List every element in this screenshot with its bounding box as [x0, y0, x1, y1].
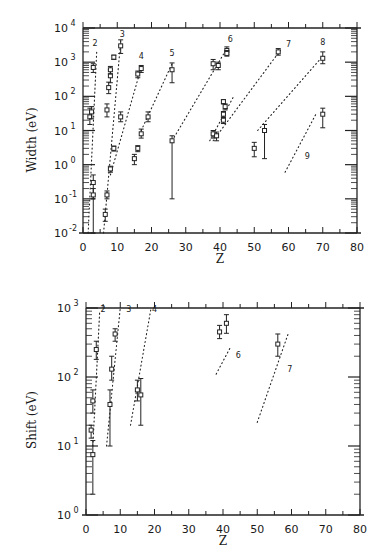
x-tick-label: 30 — [179, 241, 193, 254]
curve-label: 6 — [236, 351, 241, 360]
data-point — [275, 334, 280, 356]
x-tick-label: 10 — [110, 241, 124, 254]
x-tick-label: 70 — [319, 523, 333, 536]
data-point — [224, 50, 229, 56]
marker — [91, 399, 95, 403]
theory-curve-6 — [216, 348, 230, 374]
theory-curve-2 — [88, 52, 97, 233]
data-point — [262, 124, 267, 158]
x-tick-label: 30 — [182, 523, 196, 536]
y-tick-exponent: 0 — [70, 156, 75, 165]
curve-label: 4 — [139, 52, 144, 61]
y-tick-label: 10 — [54, 125, 68, 138]
data-point — [170, 63, 175, 83]
x-tick-label: 0 — [83, 523, 90, 536]
marker — [112, 146, 116, 150]
marker — [91, 193, 95, 197]
data-point — [252, 142, 257, 156]
y-tick-label: 10 — [57, 509, 71, 522]
data-point — [132, 154, 137, 164]
data-point — [146, 112, 151, 122]
marker — [91, 181, 95, 185]
data-point — [108, 66, 113, 74]
data-point — [118, 112, 123, 122]
y-tick-label: 10 — [57, 302, 71, 315]
width-chart: 01020304050607080Z10410310210110010-110-… — [25, 19, 364, 266]
curve-label: 8 — [320, 38, 325, 47]
curve-label: 4 — [152, 305, 157, 314]
theory-curve-5 — [141, 64, 172, 131]
data-point — [106, 82, 111, 93]
data-point — [170, 136, 175, 199]
curve-label: 6 — [228, 35, 233, 44]
data-point — [90, 441, 95, 495]
data-point — [91, 64, 96, 73]
x-tick-label: 80 — [350, 241, 364, 254]
y-tick-exponent: 3 — [70, 53, 75, 62]
marker — [321, 56, 325, 60]
x-tick-label: 0 — [80, 241, 87, 254]
marker — [139, 393, 143, 397]
data-point — [216, 62, 221, 70]
y-axis-label: Shift (eV) — [25, 391, 39, 449]
marker — [218, 330, 222, 334]
y-tick-label: 10 — [54, 227, 68, 240]
marker — [110, 367, 114, 371]
marker — [91, 65, 95, 69]
marker — [119, 115, 123, 119]
data-point — [223, 104, 228, 110]
marker — [113, 332, 117, 336]
y-tick-label: 10 — [54, 159, 68, 172]
shift-chart: 01020304050607080Z103102101100Shift (eV)… — [25, 299, 367, 548]
marker — [108, 68, 112, 72]
data-point — [221, 118, 226, 124]
marker — [103, 212, 107, 216]
data-point — [135, 146, 140, 152]
data-point — [94, 341, 99, 359]
data-point — [89, 425, 94, 438]
marker — [223, 105, 227, 109]
y-tick-label: 10 — [57, 440, 71, 453]
marker — [108, 167, 112, 171]
marker — [94, 348, 98, 352]
x-tick-label: 50 — [250, 523, 264, 536]
y-tick-exponent: 4 — [70, 19, 75, 28]
marker — [107, 86, 111, 90]
marker — [221, 112, 225, 116]
data-point — [113, 329, 118, 341]
theory-curve-7 — [213, 49, 282, 141]
curve-label: 7 — [287, 365, 292, 374]
data-point — [109, 356, 114, 380]
marker — [146, 115, 150, 119]
data-point — [118, 40, 123, 54]
curve-label: 9 — [305, 152, 310, 161]
curve-label: 2 — [101, 305, 106, 314]
x-tick-label: 60 — [285, 523, 299, 536]
marker — [89, 428, 93, 432]
marker — [216, 63, 220, 67]
data-point — [104, 104, 109, 117]
y-tick-exponent: 2 — [70, 87, 75, 96]
y-tick-exponent: -2 — [69, 224, 77, 233]
data-point — [276, 49, 281, 56]
x-tick-label: 60 — [282, 241, 296, 254]
x-tick-label: 10 — [113, 523, 127, 536]
figure: 01020304050607080Z10410310210110010-110-… — [0, 0, 388, 560]
curve-label: 3 — [120, 30, 125, 39]
marker — [139, 132, 143, 136]
y-tick-exponent: 2 — [73, 368, 78, 377]
y-tick-label: 10 — [57, 371, 71, 384]
curve-label: 7 — [286, 40, 291, 49]
data-point — [103, 209, 108, 221]
marker — [135, 388, 139, 392]
marker — [321, 112, 325, 116]
data-point — [221, 100, 226, 104]
data-point — [104, 191, 109, 199]
y-tick-exponent: 1 — [70, 122, 75, 131]
data-point — [111, 55, 116, 59]
marker — [170, 139, 174, 143]
x-axis-label: Z — [216, 252, 224, 266]
x-tick-label: 20 — [145, 241, 159, 254]
theory-curve-9 — [285, 114, 316, 172]
data-point — [320, 52, 325, 64]
